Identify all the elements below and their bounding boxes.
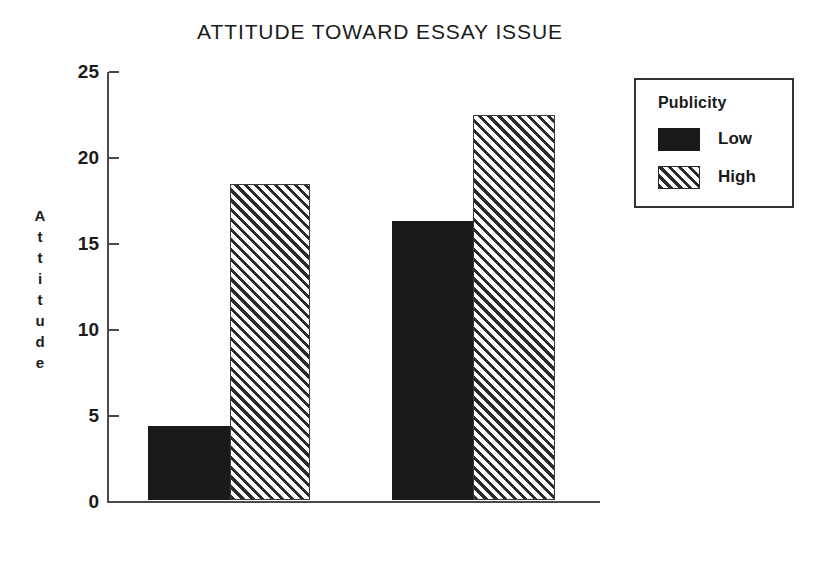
bar: [392, 221, 473, 500]
y-axis-tick-label: 20: [78, 148, 99, 167]
bar: [230, 184, 310, 500]
legend-swatch: [658, 128, 700, 151]
chart-title: ATTITUDE TOWARD ESSAY ISSUE: [0, 20, 760, 44]
legend-entry-label: High: [718, 167, 756, 187]
y-axis-tick-label: 0: [88, 492, 99, 511]
y-axis-title-letter: i: [28, 268, 52, 289]
y-axis-tick: [109, 71, 119, 73]
y-axis-tick: [109, 157, 119, 159]
y-axis-title-letter: t: [28, 226, 52, 247]
y-axis-title-letter: d: [28, 331, 52, 352]
y-axis-title-letter: e: [28, 352, 52, 373]
y-axis-title-letter: t: [28, 289, 52, 310]
legend-entry-label: Low: [718, 129, 752, 149]
x-axis-line: [107, 501, 600, 503]
y-axis-tick-label: 10: [78, 320, 99, 339]
y-axis-tick-labels: 0510152025: [55, 72, 99, 502]
y-axis-tick: [109, 501, 119, 503]
plot-area: [107, 72, 600, 502]
y-axis-title-letter: u: [28, 310, 52, 331]
bar: [148, 426, 230, 500]
chart-figure: ATTITUDE TOWARD ESSAY ISSUE Attitude 051…: [0, 0, 820, 569]
y-axis-title-letter: t: [28, 247, 52, 268]
y-axis-title: Attitude: [28, 205, 52, 373]
y-axis-title-letter: A: [28, 205, 52, 226]
legend-title: Publicity: [658, 94, 726, 112]
y-axis-tick: [109, 243, 119, 245]
y-axis-tick: [109, 415, 119, 417]
bar: [473, 115, 555, 500]
y-axis-tick: [109, 329, 119, 331]
legend: Publicity LowHigh: [634, 78, 794, 208]
y-axis-tick-label: 25: [78, 62, 99, 81]
y-axis-tick-label: 15: [78, 234, 99, 253]
y-axis-line: [107, 72, 109, 503]
legend-swatch: [658, 166, 700, 189]
y-axis-tick-label: 5: [88, 406, 99, 425]
